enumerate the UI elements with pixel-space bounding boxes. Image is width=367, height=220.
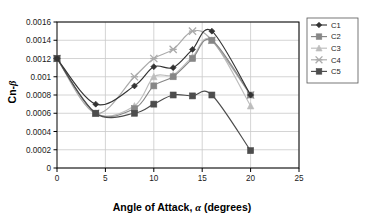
x-axis-title-suffix: (degrees): [201, 201, 251, 213]
data-point-marker-square: [190, 56, 196, 62]
data-point-marker-square: [131, 110, 137, 116]
y-tick-label: 0.0014: [26, 36, 51, 45]
y-axis-title-prefix: Cn-: [6, 85, 18, 103]
x-tick-label: 5: [103, 174, 108, 183]
y-tick-label: 0.0004: [26, 128, 51, 137]
y-axis-tick-labels: 00.00020.00040.00060.00080.0010.00120.00…: [26, 18, 51, 173]
x-axis-title-prefix: Angle of Attack,: [113, 201, 195, 213]
x-tick-label: 0: [55, 174, 60, 183]
y-tick-label: 0.0008: [26, 91, 51, 100]
y-tick-label: 0.0012: [26, 55, 51, 64]
data-point-marker-square: [151, 83, 157, 89]
data-point-marker-square: [316, 69, 322, 75]
data-point-marker-square: [209, 37, 215, 43]
data-point-marker-square: [209, 92, 215, 98]
y-tick-label: 0.0016: [26, 18, 51, 27]
data-point-marker-square: [151, 101, 157, 107]
data-point-marker-square: [170, 92, 176, 98]
x-axis-title: Angle of Attack, α (degrees): [113, 201, 251, 213]
x-tick-label: 25: [294, 174, 304, 183]
legend-label: C4: [331, 56, 341, 65]
svg-text:Angle of Attack, α (degrees): Angle of Attack, α (degrees): [113, 201, 251, 213]
legend-label: C2: [331, 32, 341, 41]
chart-legend: C1C2C3C4C5: [307, 18, 358, 83]
data-point-marker-square: [248, 148, 254, 154]
data-point-marker-square: [93, 110, 99, 116]
x-tick-label: 15: [198, 174, 208, 183]
legend-label: C3: [331, 44, 341, 53]
legend-label: C5: [331, 67, 341, 76]
y-axis-title-symbol: β: [7, 80, 18, 87]
x-tick-label: 10: [149, 174, 159, 183]
y-tick-label: 0.0002: [26, 146, 51, 155]
y-axis-title: Cn-β: [6, 80, 18, 104]
legend-label: C1: [331, 21, 341, 30]
x-tick-label: 20: [246, 174, 256, 183]
data-point-marker-square: [190, 93, 196, 99]
data-point-marker-square: [316, 34, 322, 40]
svg-text:Cn-β: Cn-β: [6, 80, 18, 104]
y-tick-label: 0.0006: [26, 109, 51, 118]
data-point-marker-square: [170, 74, 176, 80]
y-tick-label: 0.001: [31, 73, 52, 82]
chart-figure: 0510152025 00.00020.00040.00060.00080.00…: [0, 0, 367, 220]
y-tick-label: 0: [46, 164, 51, 173]
line-chart: 0510152025 00.00020.00040.00060.00080.00…: [0, 0, 367, 220]
